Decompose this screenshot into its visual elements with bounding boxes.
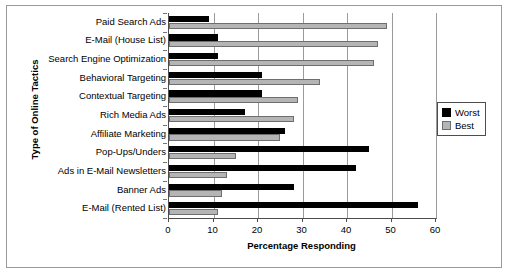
- x-tick-label: 20: [252, 224, 263, 235]
- bar-worst: [169, 184, 294, 190]
- bar-worst: [169, 146, 369, 152]
- legend-label: Best: [455, 120, 474, 131]
- bar-group: [169, 143, 436, 162]
- bar-worst: [169, 128, 285, 134]
- y-tick-mark: [163, 32, 167, 33]
- y-tick-mark: [163, 50, 167, 51]
- chart-legend: WorstBest: [437, 102, 486, 136]
- bar-group: [169, 50, 436, 69]
- x-tick-mark: [257, 218, 258, 222]
- y-axis-tick-labels: Paid Search AdsE-Mail (House List)Search…: [28, 13, 166, 218]
- bar-best: [169, 190, 222, 196]
- y-tick-label: Ads in E-Mail Newsletters: [28, 166, 166, 176]
- bar-worst: [169, 72, 262, 78]
- bar-worst: [169, 202, 418, 208]
- y-tick-mark: [163, 106, 167, 107]
- x-tick-label: 30: [296, 224, 307, 235]
- bar-worst: [169, 34, 218, 40]
- bar-worst: [169, 16, 209, 22]
- legend-item: Best: [442, 119, 480, 132]
- bar-best: [169, 116, 294, 122]
- x-tick-label: 10: [207, 224, 218, 235]
- x-tick-mark: [435, 218, 436, 222]
- bar-group: [169, 162, 436, 181]
- y-tick-mark: [163, 125, 167, 126]
- legend-label: Worst: [455, 107, 480, 118]
- y-tick-label: Contextual Targeting: [28, 91, 166, 101]
- plot-area: [168, 13, 437, 219]
- x-tick-mark: [346, 218, 347, 222]
- bar-best: [169, 79, 320, 85]
- y-tick-label: Behavioral Targeting: [28, 73, 166, 83]
- y-tick-label: E-Mail (House List): [28, 35, 166, 45]
- bar-worst: [169, 165, 356, 171]
- bar-worst: [169, 109, 245, 115]
- y-tick-label: Rich Media Ads: [28, 110, 166, 120]
- x-tick-mark: [213, 218, 214, 222]
- bar-best: [169, 134, 280, 140]
- x-tick-mark: [168, 218, 169, 222]
- y-tick-mark: [163, 181, 167, 182]
- bar-group: [169, 181, 436, 200]
- bar-group: [169, 199, 436, 218]
- bar-group: [169, 125, 436, 144]
- y-tick-mark: [163, 88, 167, 89]
- y-tick-label: Banner Ads: [28, 185, 166, 195]
- y-tick-label: Affiliate Marketing: [28, 129, 166, 139]
- x-tick-label: 60: [430, 224, 441, 235]
- y-tick-label: E-Mail (Rented List): [28, 203, 166, 213]
- bar-best: [169, 23, 387, 29]
- y-tick-mark: [163, 13, 167, 14]
- y-tick-mark: [163, 69, 167, 70]
- x-tick-label: 40: [341, 224, 352, 235]
- chart-figure: Type of Online Tactics Paid Search AdsE-…: [0, 0, 508, 274]
- bar-best: [169, 172, 227, 178]
- bar-group: [169, 106, 436, 125]
- y-tick-label: Search Engine Optimization: [28, 54, 166, 64]
- bar-best: [169, 209, 218, 215]
- bar-best: [169, 60, 374, 66]
- y-tick-mark: [163, 162, 167, 163]
- bar-group: [169, 32, 436, 51]
- x-tick-label: 50: [385, 224, 396, 235]
- y-tick-label: Pop-Ups/Unders: [28, 147, 166, 157]
- y-tick-mark: [163, 199, 167, 200]
- y-tick-mark: [163, 143, 167, 144]
- legend-swatch-best: [442, 121, 451, 130]
- bar-group: [169, 69, 436, 88]
- x-axis-title: Percentage Responding: [168, 240, 435, 251]
- x-tick-mark: [391, 218, 392, 222]
- bar-worst: [169, 90, 262, 96]
- bar-group: [169, 88, 436, 107]
- legend-swatch-worst: [442, 108, 451, 117]
- x-tick-label: 0: [165, 224, 170, 235]
- bar-best: [169, 97, 298, 103]
- bar-group: [169, 13, 436, 32]
- y-tick-mark: [163, 218, 167, 219]
- y-tick-label: Paid Search Ads: [28, 17, 166, 27]
- x-tick-mark: [302, 218, 303, 222]
- bar-best: [169, 41, 378, 47]
- legend-item: Worst: [442, 106, 480, 119]
- bar-worst: [169, 53, 218, 59]
- bar-best: [169, 153, 236, 159]
- x-axis-tick-labels: 0102030405060: [0, 224, 508, 238]
